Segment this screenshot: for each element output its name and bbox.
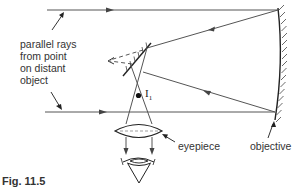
image-point-subscript: 1 [149, 94, 153, 102]
objective-label: objective [250, 140, 291, 152]
reflected-ray-bottom [143, 72, 275, 112]
label-line: parallel rays [20, 38, 100, 50]
image-point-label: I1 [145, 87, 152, 104]
incoming-ray-top [47, 8, 278, 13]
label-leader-bottom [51, 92, 62, 110]
eyepiece-leader [162, 134, 175, 142]
arrow-icon [99, 110, 107, 115]
reflected-ray-top [147, 10, 278, 48]
label-line: from point [20, 50, 100, 62]
exit-rays [124, 137, 155, 155]
incoming-ray-bottom [45, 110, 275, 115]
plane-mirror [123, 43, 151, 77]
incoming-rays-label: parallel rays from point on distant obje… [20, 38, 100, 86]
eye-icon [121, 158, 155, 183]
figure-caption: Fig. 11.5 [2, 175, 45, 187]
label-line: on distant [20, 62, 100, 74]
image-point-dot [136, 93, 141, 98]
objective-mirror [275, 5, 287, 122]
label-leader-top [52, 12, 64, 30]
label-line: object [20, 74, 100, 86]
arrow-icon [106, 8, 114, 13]
converging-rays [126, 48, 152, 124]
eyepiece-lens [115, 125, 162, 138]
eyepiece-label: eyepiece [178, 140, 220, 152]
objective-leader [268, 121, 276, 138]
